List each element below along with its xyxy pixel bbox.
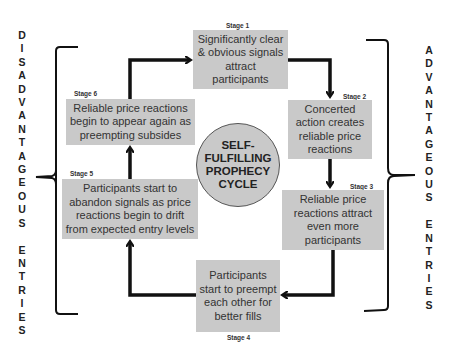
stage-3-box: Reliable price reactions attract even mo…: [282, 190, 384, 250]
stage-1-label: Stage 1: [226, 22, 249, 29]
stage-5-box: Participants start to abandon signals as…: [62, 179, 198, 239]
advantageous-entries-label: A D V A N T A G E O U S E N T R I E S: [422, 44, 436, 312]
disadvantageous-entries-label: D I S A D V A N T A G E O U S E N T R I …: [15, 29, 29, 337]
stage-4-label: Stage 4: [227, 334, 250, 341]
stage-6-label: Stage 6: [74, 90, 97, 97]
stage-4-box: Participants start to preempt each other…: [196, 260, 280, 332]
cycle-title-circle: SELF- FULFILLING PROPHECY CYCLE: [196, 123, 280, 207]
stage-1-box: Significantly clear & obvious signals at…: [193, 30, 288, 89]
stage-3-label: Stage 3: [350, 183, 373, 190]
stage-5-label: Stage 5: [70, 170, 93, 177]
stage-2-box: Concerted action creates reliable price …: [288, 100, 372, 159]
stage-2-label: Stage 2: [343, 93, 366, 100]
stage-6-box: Reliable price reactions begin to appear…: [66, 99, 195, 145]
